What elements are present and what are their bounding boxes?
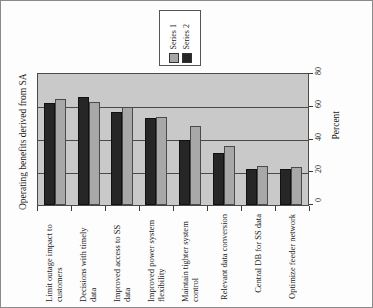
x-tick: [71, 206, 72, 211]
x-category: Improved access to SS data: [105, 212, 139, 304]
plot-area: [37, 73, 309, 206]
x-tick: [241, 206, 242, 211]
x-category-label: Maintain tighter system control: [180, 214, 200, 302]
x-axis-labels: Limit outage impact to customersDecision…: [37, 212, 309, 304]
legend-label-series-2: Series 2: [183, 24, 191, 50]
bar-group: [274, 74, 308, 205]
x-tick: [207, 206, 208, 211]
x-category-label: Central DB for SS data: [253, 214, 263, 293]
y-tick-label-60: 60: [315, 100, 323, 108]
x-tick: [37, 206, 38, 211]
x-category: Limit outage impact to customers: [37, 212, 71, 304]
legend-swatch-series-1-icon: [169, 53, 179, 63]
bar-series-1: [291, 167, 302, 205]
y-axis-title: Operating benefits derived from SA: [15, 69, 31, 214]
y-tick-label-80: 80: [315, 67, 323, 75]
bar-series-1: [224, 146, 235, 205]
x-category: Relevant data conversion: [207, 212, 241, 304]
percent-axis-label: Percent: [331, 111, 341, 140]
x-category-label: Limit outage impact to customers: [44, 214, 64, 302]
bar-series-1: [89, 102, 100, 205]
x-category: Central DB for SS data: [241, 212, 275, 304]
y-axis-ticks: 020406080: [309, 73, 333, 206]
bar-series-2: [280, 169, 291, 205]
bar-series-1: [122, 107, 133, 205]
y-tick-label-0: 0: [315, 198, 323, 202]
y-tick-label-20: 20: [315, 165, 323, 173]
x-category-label: Improved power system flexibility: [146, 214, 166, 302]
chart-figure: Series 2 Series 1 Operating benefits der…: [0, 0, 373, 308]
x-tick: [309, 206, 310, 211]
bar-series-2: [213, 153, 224, 205]
y-tick-label-40: 40: [315, 133, 323, 141]
bar-series-2: [44, 103, 55, 205]
chart-legend: Series 2 Series 1: [159, 10, 201, 66]
legend-label-series-1: Series 1: [170, 24, 178, 50]
y-tick-40: [309, 139, 313, 140]
bar-series-2: [111, 112, 122, 205]
x-category-label: Relevant data conversion: [219, 214, 229, 300]
x-tick: [173, 206, 174, 211]
bar-groups: [38, 74, 308, 205]
x-category: Decisions with timely data: [71, 212, 105, 304]
x-category: Improved power system flexibility: [139, 212, 173, 304]
bar-group: [72, 74, 106, 205]
bar-group: [139, 74, 173, 205]
legend-swatch-series-2-icon: [182, 53, 192, 63]
x-category-label: Improved access to SS data: [112, 214, 132, 302]
x-tick: [139, 206, 140, 211]
x-tick: [275, 206, 276, 211]
legend-entry-series-2: Series 2: [182, 13, 192, 63]
bar-series-1: [190, 126, 201, 205]
x-category-label: Decisions with timely data: [78, 214, 98, 302]
x-tick: [105, 206, 106, 211]
bar-series-2: [145, 118, 156, 205]
bar-group: [241, 74, 275, 205]
bar-group: [106, 74, 140, 205]
bar-group: [173, 74, 207, 205]
bar-group: [207, 74, 241, 205]
bar-series-2: [179, 140, 190, 206]
legend-entry-series-1: Series 1: [169, 13, 179, 63]
y-tick-60: [309, 106, 313, 107]
y-tick-80: [309, 73, 313, 74]
y-tick-0: [309, 204, 313, 205]
bar-series-1: [156, 117, 167, 205]
x-category: Optimize feeder network: [275, 212, 309, 304]
bar-series-1: [55, 99, 66, 205]
x-category-label: Optimize feeder network: [287, 214, 297, 299]
y-tick-20: [309, 171, 313, 172]
bar-series-1: [257, 166, 268, 205]
bar-series-2: [78, 97, 89, 205]
bar-series-2: [246, 169, 257, 205]
x-category: Maintain tighter system control: [173, 212, 207, 304]
bar-group: [38, 74, 72, 205]
